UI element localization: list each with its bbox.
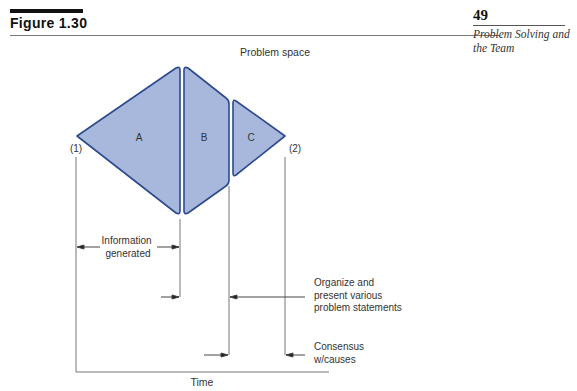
region-c-shape [233, 100, 285, 175]
consensus-label: Consensus w/causes [313, 341, 367, 365]
time-axis-label: Time [191, 376, 214, 388]
information-generated-label: Information generated [102, 235, 155, 259]
information-generated-arrows [77, 245, 305, 357]
region-a-shape [77, 67, 180, 213]
region-b-label: B [201, 132, 208, 143]
region-c-label: C [247, 132, 254, 143]
diagram-title: Problem space [240, 46, 310, 58]
region-a-label: A [136, 132, 143, 143]
end-point-label: (2) [289, 143, 301, 154]
start-point-label: (1) [70, 143, 82, 154]
organize-label: Organize and present various problem sta… [314, 277, 402, 313]
problem-space-diagram: Problem space A B C (1) (2) Infor [0, 0, 577, 391]
